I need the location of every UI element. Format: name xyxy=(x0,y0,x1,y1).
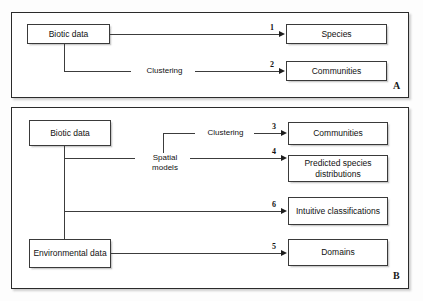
node-intuitive-classifications: Intuitive classifications xyxy=(288,197,388,225)
edge-number-3: 3 xyxy=(272,122,276,131)
node-environmental-data: Environmental data xyxy=(29,239,111,268)
edge-clustering-arrowhead-a xyxy=(279,68,285,74)
edge-number-5: 5 xyxy=(272,242,276,251)
node-label: Domains xyxy=(321,247,355,258)
panel-label-b: B xyxy=(393,270,400,281)
edge-clustering-in-line-b xyxy=(163,133,195,134)
node-label: Species xyxy=(321,29,351,40)
node-label: Communities xyxy=(312,66,362,77)
edge-clustering-arrowhead-b xyxy=(281,130,287,136)
node-communities-a: Communities xyxy=(286,61,387,81)
edge-spatial-arrowhead xyxy=(281,155,287,161)
figure-canvas: Biotic data Species Communities 1 Cluste… xyxy=(0,0,423,301)
node-biotic-data-b: Biotic data xyxy=(29,120,111,146)
edge-intuitive-line xyxy=(64,211,282,212)
edge-spatial-in-line xyxy=(64,158,135,159)
node-label: Environmental data xyxy=(33,248,106,259)
edge-label-clustering-a: Clustering xyxy=(136,66,193,76)
node-communities-b: Communities xyxy=(288,122,388,145)
node-predicted-species-distributions: Predicted species distributions xyxy=(288,155,388,182)
node-label: Predicted species distributions xyxy=(291,158,385,179)
node-label: Biotic data xyxy=(49,29,89,40)
panel-label-a: A xyxy=(393,80,400,91)
edge-domains-line xyxy=(111,253,282,254)
edge-biotic-to-species-arrowhead xyxy=(279,31,285,37)
node-label: Biotic data xyxy=(50,128,90,139)
edge-number-2: 2 xyxy=(270,60,274,69)
edge-label-clustering-b: Clustering xyxy=(197,128,254,138)
edge-clustering-out-line-b xyxy=(254,133,282,134)
edge-number-4: 4 xyxy=(272,147,276,156)
edge-clustering-out-line-a xyxy=(195,71,280,72)
edge-biotic-drop-line-a xyxy=(64,44,65,71)
edge-spatial-out-line xyxy=(190,158,282,159)
edge-number-6: 6 xyxy=(272,200,276,209)
edge-number-1: 1 xyxy=(270,23,274,32)
node-label: Intuitive classifications xyxy=(296,206,380,217)
node-label: Communities xyxy=(313,128,363,139)
node-biotic-data-a: Biotic data xyxy=(27,24,110,44)
node-domains: Domains xyxy=(288,239,388,266)
node-species: Species xyxy=(286,24,387,44)
edge-clustering-in-line-a xyxy=(64,71,131,72)
edge-label-spatial-models: Spatial models xyxy=(140,153,190,172)
edge-biotic-to-species-line xyxy=(110,34,280,35)
edge-domains-arrowhead xyxy=(281,250,287,256)
edge-biotic-trunk-line-b xyxy=(64,146,65,239)
edge-intuitive-arrowhead xyxy=(281,208,287,214)
